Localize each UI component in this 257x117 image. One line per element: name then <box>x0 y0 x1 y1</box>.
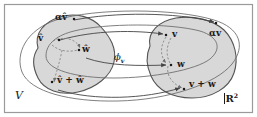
label-codomain-R2: R2 <box>224 93 238 104</box>
blackboard-R-glyph: R <box>224 93 234 104</box>
label-w-hat: ŵ <box>82 45 90 54</box>
vector-space-isomorphism-figure: αv̂ v̂ ŵ v̂ + ŵ v αv w v + w ϕv V R2 <box>0 0 257 117</box>
label-map-phi: ϕv <box>114 52 124 64</box>
diagram-canvas <box>0 0 257 117</box>
point-what <box>78 49 81 52</box>
codomain-exponent: 2 <box>234 92 238 99</box>
point-v <box>165 34 168 37</box>
point-alpha-vhat <box>73 18 76 21</box>
point-left-sum <box>51 81 54 84</box>
point-vhat <box>58 39 61 42</box>
label-domain-V: V <box>15 90 23 101</box>
phi-subscript: v <box>121 57 125 64</box>
label-v-hat: v̂ <box>38 34 43 43</box>
label-alpha-v-hat: αv̂ <box>55 13 67 22</box>
point-alpha-v <box>215 22 218 25</box>
label-v-plus-w: v + w <box>189 80 216 89</box>
label-v: v <box>172 30 177 39</box>
label-v-hat-plus-w-hat: v̂ + ŵ <box>57 76 84 85</box>
label-w: w <box>177 60 185 69</box>
point-w <box>170 64 173 67</box>
point-right-sum <box>183 88 186 91</box>
phi-glyph: ϕ <box>114 51 121 62</box>
label-alpha-v: αv <box>209 29 221 38</box>
